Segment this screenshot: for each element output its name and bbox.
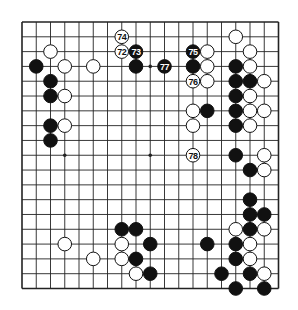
white-stone [115, 252, 129, 266]
black-stone [129, 252, 143, 266]
numbered-move-73: 73 [129, 45, 143, 59]
move-number-label: 75 [189, 47, 198, 57]
white-stone [243, 119, 257, 133]
white-stone [86, 252, 100, 266]
black-stone [243, 222, 257, 236]
black-stone [129, 222, 143, 236]
black-stone [200, 237, 214, 251]
white-stone [229, 222, 243, 236]
white-stone [243, 60, 257, 74]
star-point [148, 65, 152, 69]
white-stone [200, 60, 214, 74]
numbered-move-72: 72 [115, 45, 129, 59]
white-stone [243, 89, 257, 103]
white-stone [58, 237, 72, 251]
black-stone [243, 193, 257, 207]
black-stone [243, 163, 257, 177]
black-stone [229, 282, 243, 296]
black-stone [257, 282, 271, 296]
white-stone [58, 60, 72, 74]
black-stone [129, 60, 143, 74]
white-stone [243, 237, 257, 251]
black-stone [229, 252, 243, 266]
black-stone [257, 208, 271, 222]
black-stone [143, 267, 157, 281]
white-stone [257, 222, 271, 236]
move-number-label: 72 [117, 47, 126, 57]
white-stone [200, 45, 214, 59]
numbered-move-78: 78 [186, 148, 200, 162]
white-stone [257, 148, 271, 162]
black-stone [44, 119, 58, 133]
black-stone [229, 237, 243, 251]
white-stone [257, 267, 271, 281]
black-stone [243, 208, 257, 222]
star-point [63, 153, 67, 157]
white-stone [243, 45, 257, 59]
black-stone [229, 60, 243, 74]
white-stone [129, 267, 143, 281]
star-point [148, 153, 152, 157]
white-stone [257, 104, 271, 118]
white-stone [257, 163, 271, 177]
white-stone [186, 119, 200, 133]
move-number-label: 74 [117, 32, 126, 42]
white-stone [200, 74, 214, 88]
black-stone [44, 134, 58, 148]
black-stone [115, 222, 129, 236]
black-stone [243, 74, 257, 88]
move-number-label: 77 [160, 62, 169, 72]
black-stone [243, 267, 257, 281]
move-number-label: 78 [189, 151, 198, 161]
black-stone [29, 60, 43, 74]
black-stone [44, 74, 58, 88]
black-stone [44, 89, 58, 103]
white-stone [115, 237, 129, 251]
white-stone [58, 89, 72, 103]
black-stone [229, 89, 243, 103]
white-stone [257, 74, 271, 88]
black-stone [229, 148, 243, 162]
move-number-label: 76 [189, 77, 198, 87]
white-stone [243, 252, 257, 266]
black-stone [200, 104, 214, 118]
go-board: 72737475767778 [0, 0, 298, 310]
black-stone [186, 60, 200, 74]
white-stone [44, 45, 58, 59]
black-stone [143, 237, 157, 251]
white-stone [186, 104, 200, 118]
numbered-move-76: 76 [186, 74, 200, 88]
black-stone [215, 267, 229, 281]
move-number-label: 73 [132, 47, 141, 57]
numbered-move-77: 77 [158, 60, 172, 74]
black-stone [229, 74, 243, 88]
white-stone [243, 104, 257, 118]
white-stone [58, 119, 72, 133]
white-stone [86, 60, 100, 74]
white-stone [229, 30, 243, 44]
numbered-move-74: 74 [115, 30, 129, 44]
numbered-move-75: 75 [186, 45, 200, 59]
black-stone [229, 104, 243, 118]
black-stone [229, 119, 243, 133]
